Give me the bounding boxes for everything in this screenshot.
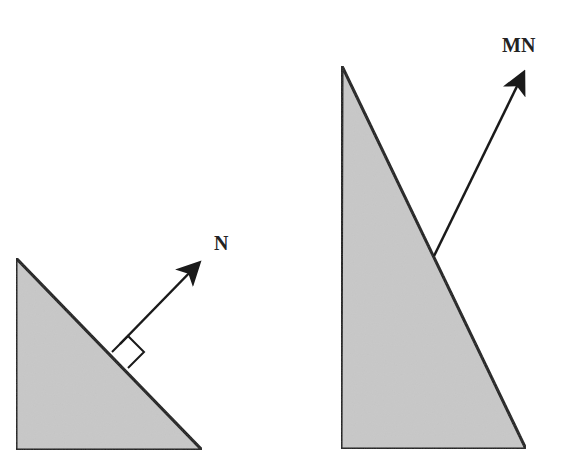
diagram-canvas: N MN (0, 0, 576, 470)
normal-vector-label: N (214, 232, 229, 254)
transformed-vector-label: MN (502, 34, 536, 56)
normal-vector-arrow (120, 264, 198, 344)
transformed-vector-arrow (434, 74, 523, 256)
left-figure: N (16, 232, 229, 450)
right-figure: MN (341, 34, 536, 449)
